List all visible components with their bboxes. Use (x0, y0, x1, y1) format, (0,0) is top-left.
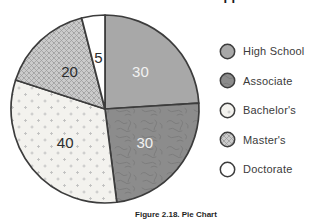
pie-chart-area: 303040205 (9, 13, 201, 205)
legend-item-master-s: Master's (219, 132, 305, 148)
slice-value-label-associate: 30 (136, 134, 153, 151)
legend-label-bachelor-s: Bachelor's (243, 104, 296, 116)
legend-label-associate: Associate (243, 75, 293, 87)
legend-item-associate: Associate (219, 73, 305, 89)
figure-caption: Figure 2.18. Pie Chart (0, 210, 316, 219)
legend-swatch-bachelor-s (219, 102, 236, 119)
legend: High SchoolAssociateBachelor'sMaster'sDo… (219, 43, 305, 191)
legend-label-doctorate: Doctorate (243, 163, 293, 175)
slice-value-label-master-s: 20 (61, 63, 78, 80)
legend-swatch-associate (219, 72, 236, 89)
pie-chart: 303040205 (9, 13, 201, 205)
legend-label-high-school: High School (243, 45, 305, 57)
figure-page: Education Level of Applicants 303040205 … (0, 0, 316, 224)
chart-title: Education Level of Applicants (60, 0, 316, 3)
legend-item-doctorate: Doctorate (219, 161, 305, 177)
slice-value-label-bachelor-s: 40 (57, 134, 74, 151)
legend-item-high-school: High School (219, 43, 305, 59)
legend-swatch-doctorate (219, 161, 236, 178)
slice-value-label-doctorate: 5 (94, 49, 102, 66)
legend-swatch-master-s (219, 131, 236, 148)
slice-value-label-high-school: 30 (132, 63, 149, 80)
legend-swatch-high-school (219, 43, 236, 60)
legend-item-bachelor-s: Bachelor's (219, 102, 305, 118)
pie-slice-associate: 30 (105, 103, 199, 202)
pie-slice-high-school: 30 (105, 15, 199, 109)
legend-label-master-s: Master's (243, 134, 286, 146)
